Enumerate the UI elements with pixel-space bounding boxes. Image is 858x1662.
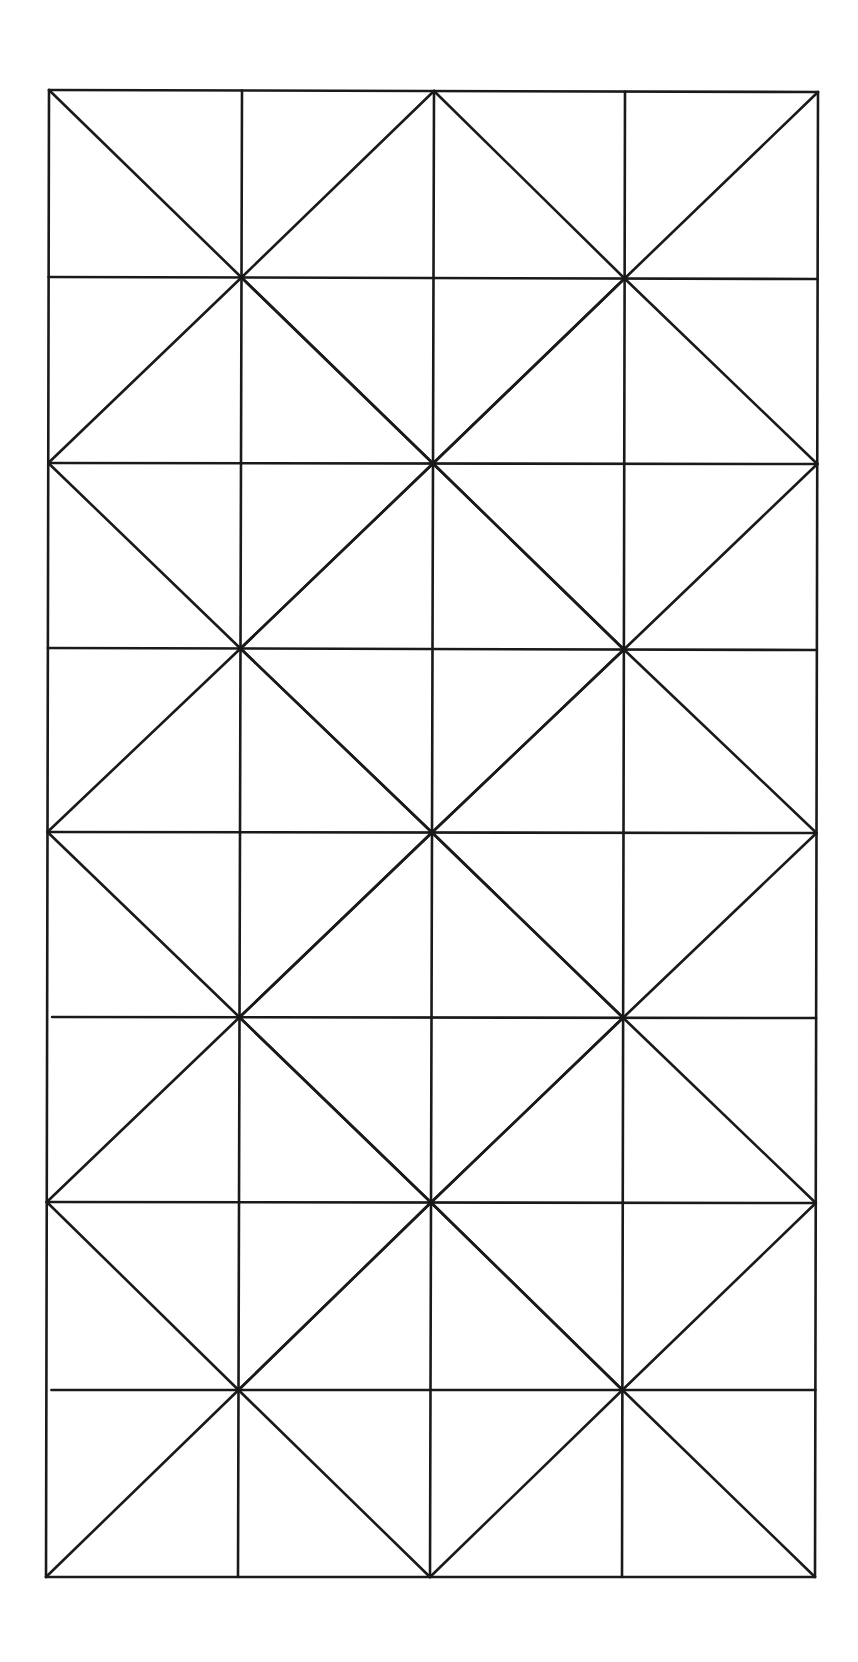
diagonal-line: [46, 1390, 239, 1577]
diagonal-line: [433, 279, 625, 464]
diagonal-line: [239, 1203, 432, 1391]
grid-diagram: [0, 0, 858, 1662]
diagonal-line: [625, 92, 818, 279]
diagonal-line: [49, 90, 242, 278]
diagonal-line: [241, 464, 434, 649]
diagonal-line: [434, 91, 625, 279]
diagonal-line: [242, 278, 434, 464]
diagonal-line: [48, 832, 240, 1017]
diagonal-line: [431, 1018, 623, 1203]
diagonal-line: [47, 1202, 239, 1390]
diagonal-line: [623, 1018, 816, 1203]
diagonal-line: [433, 464, 624, 650]
diagonal-line: [624, 650, 817, 834]
diagonal-line: [432, 650, 624, 833]
diagonal-line: [48, 649, 241, 833]
diagonal-line: [240, 1017, 432, 1202]
diagonal-line: [242, 91, 435, 278]
diagonal-line: [48, 278, 241, 464]
diagonal-line: [430, 1390, 622, 1577]
horizontal-line: [52, 1017, 816, 1018]
diagonal-line: [625, 279, 818, 465]
diagonal-line: [240, 833, 433, 1018]
diagonal-line: [48, 463, 240, 649]
diagonal-line: [239, 1390, 431, 1577]
diagonal-line: [624, 464, 817, 650]
diagonal-line: [47, 1017, 240, 1202]
vertical-line: [622, 92, 625, 1578]
diagonal-line: [622, 1390, 815, 1577]
diagonal-line: [431, 1203, 622, 1391]
vertical-line: [238, 91, 242, 1578]
diagonal-line: [241, 649, 433, 833]
diagonal-line: [622, 1203, 815, 1390]
diagonal-line: [623, 833, 816, 1018]
diagonal-line: [432, 833, 623, 1018]
